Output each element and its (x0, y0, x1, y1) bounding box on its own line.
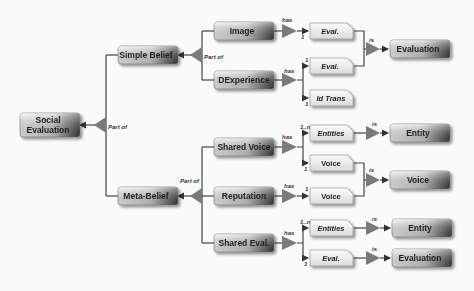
card-sv-voice: 1 (304, 166, 308, 172)
attr-rep-voice[interactable]: Voice (310, 188, 353, 204)
label-has-dexp: has (284, 68, 295, 74)
is-triangle-entity-1 (366, 126, 380, 140)
label-is-voice: is (369, 167, 375, 173)
node-shared-voice-label: Shared Voice (217, 142, 270, 152)
social-evaluation-diagram: Part of Part of Part of has has has has … (0, 0, 474, 291)
node-social-evaluation-line2: Evaluation (27, 125, 70, 135)
attr-sv-voice-label: Voice (321, 159, 340, 168)
attr-dexp-eval-label: Eval. (321, 62, 339, 71)
card-se-eval: 1 (304, 261, 308, 267)
label-is-eval-top: is (369, 37, 375, 43)
card-dexp-eval: 1 (305, 57, 309, 63)
card-se-entities: 1..n (300, 219, 311, 225)
card-image-eval: 1 (301, 34, 305, 40)
card-dexp-idtrans: 1 (305, 101, 309, 107)
node-reputation-label: Reputation (222, 191, 266, 201)
node-social-evaluation[interactable]: Social Evaluation (20, 113, 80, 137)
target-evaluation-top[interactable]: Evaluation (390, 40, 450, 58)
target-entity-2-label: Entity (408, 223, 432, 233)
target-voice-label: Voice (407, 175, 429, 185)
node-meta-belief[interactable]: Meta-Belief (118, 187, 178, 205)
label-has-se: has (284, 230, 295, 236)
is-triangle-eval-bottom (366, 251, 380, 265)
label-part-of-social: Part of (108, 124, 128, 130)
node-simple-belief[interactable]: Simple Belief (118, 46, 178, 64)
target-entity-2[interactable]: Entity (392, 219, 452, 237)
attr-image-eval[interactable]: Eval. (310, 23, 353, 39)
node-shared-voice[interactable]: Shared Voice (214, 138, 274, 156)
node-image[interactable]: Image (214, 22, 274, 40)
is-triangle-eval-top (366, 42, 380, 56)
part-of-triangle-meta (190, 188, 202, 204)
node-dexperience-label: DExperience (218, 75, 270, 85)
merge-voice (354, 163, 364, 196)
attr-rep-voice-label: Voice (321, 192, 340, 201)
label-part-of-meta: Part of (180, 178, 200, 184)
node-shared-eval[interactable]: Shared Eval. (214, 234, 274, 252)
node-reputation[interactable]: Reputation (214, 187, 274, 205)
attr-se-entities-label: Entities (317, 224, 344, 233)
card-rep-voice: 1 (305, 186, 309, 192)
attr-sv-entities-label: Entities (317, 129, 344, 138)
node-shared-eval-label: Shared Eval. (218, 238, 269, 248)
attr-sv-voice[interactable]: Voice (310, 155, 353, 171)
target-entity-1-label: Entity (406, 128, 430, 138)
branch-sv (297, 133, 303, 163)
has-triangle-dexp (282, 73, 297, 87)
has-triangle-se (282, 236, 297, 250)
target-evaluation-top-label: Evaluation (397, 44, 440, 54)
node-meta-belief-label: Meta-Belief (123, 191, 169, 201)
label-is-eval-bottom: is (372, 246, 378, 252)
card-sv-entities: 1..n (300, 124, 311, 130)
label-has-sv: has (282, 134, 293, 140)
has-triangle-sv (282, 140, 297, 154)
node-dexperience[interactable]: DExperience (214, 71, 274, 89)
label-is-entity-2: is (372, 216, 378, 222)
attr-dexp-idtrans-label: Id Trans (316, 94, 345, 103)
target-voice[interactable]: Voice (390, 171, 450, 189)
is-triangle-voice (366, 173, 380, 187)
part-of-triangle-simple (190, 47, 202, 63)
target-entity-1[interactable]: Entity (390, 124, 450, 142)
attr-dexp-idtrans[interactable]: Id Trans (310, 90, 353, 106)
label-part-of-simple: Part of (204, 54, 224, 60)
has-triangle-rep (282, 189, 297, 203)
attr-se-entities[interactable]: Entities (310, 220, 353, 236)
node-image-label: Image (230, 26, 255, 36)
target-evaluation-bottom-label: Evaluation (399, 253, 442, 263)
attr-se-eval-label: Eval. (322, 254, 340, 263)
merge-eval-top (354, 31, 364, 66)
part-of-triangle-social (94, 117, 106, 133)
branch-dexp (297, 66, 303, 98)
label-has-image: has (282, 17, 293, 23)
attributes: Eval. Eval. Id Trans Entities Voice Voic… (310, 23, 353, 266)
attr-se-eval[interactable]: Eval. (310, 250, 353, 266)
target-evaluation-bottom[interactable]: Evaluation (392, 249, 452, 267)
label-has-rep: has (284, 183, 295, 189)
attr-image-eval-label: Eval. (321, 27, 339, 36)
attr-dexp-eval[interactable]: Eval. (310, 58, 353, 74)
is-triangle-entity-2 (366, 221, 380, 235)
node-simple-belief-label: Simple Belief (119, 50, 173, 60)
node-social-evaluation-line1: Social (35, 115, 60, 125)
has-triangle-image (282, 24, 297, 38)
label-is-entity-1: is (372, 121, 378, 127)
attr-sv-entities[interactable]: Entities (310, 125, 353, 141)
branch-se (297, 228, 303, 258)
